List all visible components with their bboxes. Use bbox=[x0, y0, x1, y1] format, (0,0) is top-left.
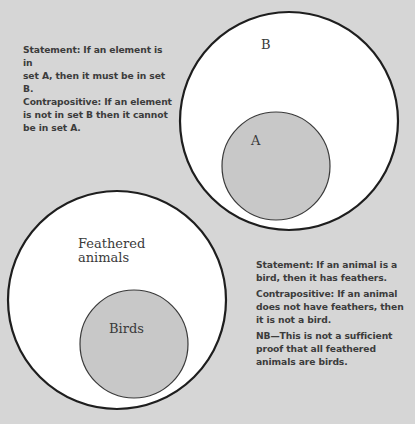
birds-label: Birds bbox=[109, 321, 144, 336]
set-a-label: A bbox=[250, 133, 261, 148]
note-line: is not in set B then it cannot bbox=[23, 108, 173, 121]
note-line: Statement: If an element is in bbox=[23, 43, 173, 69]
venn-set-b-group: B A bbox=[180, 12, 398, 230]
note-line: be in set A. bbox=[23, 121, 173, 134]
birds-circle bbox=[80, 290, 188, 398]
set-b-label: B bbox=[261, 37, 271, 52]
feathered-label-line1: Feathered bbox=[78, 236, 145, 251]
feathered-label-line2: animals bbox=[78, 250, 129, 265]
venn-feathered-group: Feathered animals Birds bbox=[8, 191, 226, 409]
set-a-circle bbox=[222, 112, 330, 220]
contrapositive-text: Contrapositive: If an animal does not ha… bbox=[256, 287, 406, 326]
statement-text: Statement: If an animal is a bird, then … bbox=[256, 258, 406, 284]
birds-statement-note: Statement: If an animal is a bird, then … bbox=[256, 258, 406, 368]
nb-text: NB—This is not a sufficient proof that a… bbox=[256, 329, 406, 368]
set-statement-note: Statement: If an element is in set A, th… bbox=[23, 43, 173, 134]
note-line: set A, then it must be in set B. bbox=[23, 69, 173, 95]
note-line: Contrapositive: If an element bbox=[23, 95, 173, 108]
